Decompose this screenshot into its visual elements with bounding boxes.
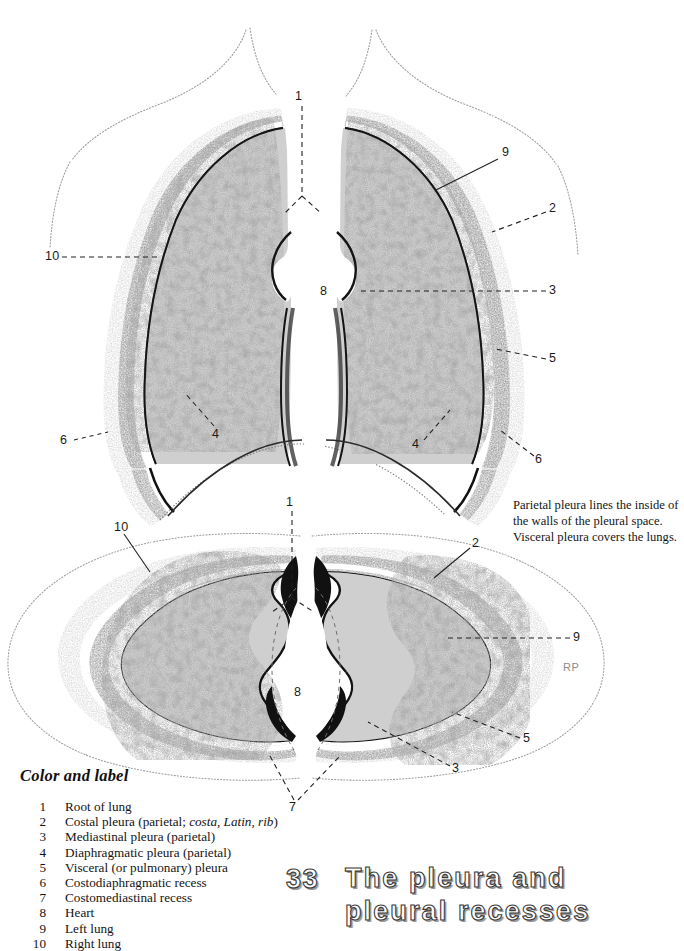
legend-label: Costodiaphragmatic recess	[46, 875, 207, 890]
legend-number: 7	[20, 890, 46, 905]
callout-coronal-4-right: 4	[412, 438, 419, 451]
legend-number: 8	[20, 905, 46, 920]
callout-coronal-1: 1	[295, 90, 302, 103]
callout-transverse-3: 3	[452, 762, 459, 775]
legend-label: Mediastinal pleura (parietal)	[46, 829, 215, 844]
callout-transverse-1: 1	[286, 496, 293, 509]
callout-coronal-5: 5	[549, 352, 556, 365]
color-and-label-heading: Color and label	[20, 766, 128, 786]
rp-watermark: RP	[563, 661, 579, 673]
chapter-heading: 33 The pleura and pleural recesses	[286, 862, 590, 928]
legend-number: 9	[20, 921, 46, 936]
callout-coronal-10: 10	[45, 250, 59, 263]
legend-number: 1	[20, 799, 46, 814]
chapter-number: 33	[286, 862, 319, 894]
legend-number: 2	[20, 814, 46, 829]
callout-coronal-8: 8	[320, 285, 327, 298]
callout-transverse-5: 5	[523, 732, 530, 745]
callout-coronal-2: 2	[549, 202, 556, 215]
legend-label: Diaphragmatic pleura (parietal)	[46, 845, 231, 860]
legend-row: 2Costal pleura (parietal; costa, Latin, …	[20, 814, 440, 829]
legend-label: Left lung	[46, 921, 114, 936]
legend-row: 4Diaphragmatic pleura (parietal)	[20, 845, 440, 860]
legend-row: 10Right lung	[20, 936, 440, 951]
explanatory-note: Parietal pleura lines the inside of the …	[513, 497, 683, 545]
legend-row: 1Root of lung	[20, 799, 440, 814]
chapter-title: The pleura and pleural recesses	[345, 862, 590, 928]
callout-coronal-6-left: 6	[60, 434, 67, 447]
transverse-section-group	[8, 511, 604, 800]
legend-number: 6	[20, 875, 46, 890]
callout-transverse-10: 10	[114, 521, 128, 534]
legend-label: Heart	[46, 905, 94, 920]
callout-transverse-2: 2	[472, 537, 479, 550]
legend-number: 4	[20, 845, 46, 860]
callout-coronal-6-right: 6	[535, 453, 542, 466]
coronal-section-group	[50, 28, 578, 526]
legend-label: Visceral (or pulmonary) pleura	[46, 860, 228, 875]
callout-transverse-8: 8	[294, 686, 301, 699]
callout-coronal-3: 3	[549, 284, 556, 297]
legend-label: Costomediastinal recess	[46, 890, 192, 905]
legend-label: Costal pleura (parietal; costa, Latin, r…	[46, 814, 278, 829]
legend-number: 3	[20, 829, 46, 844]
legend-row: 3Mediastinal pleura (parietal)	[20, 829, 440, 844]
legend-label: Right lung	[46, 936, 121, 951]
callout-coronal-9: 9	[502, 146, 509, 159]
legend-number: 10	[20, 936, 46, 951]
legend-number: 5	[20, 860, 46, 875]
legend-label: Root of lung	[46, 799, 132, 814]
callout-coronal-4-left: 4	[212, 428, 219, 441]
legend-label-italic: costa, Latin, rib	[189, 814, 273, 829]
callout-transverse-9: 9	[573, 631, 580, 644]
